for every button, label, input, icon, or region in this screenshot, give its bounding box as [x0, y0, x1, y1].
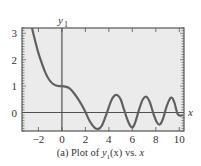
x-axis-label: x [187, 106, 193, 118]
svg-text:2: 2 [12, 54, 18, 66]
y-axis-label-subscript: 1 [64, 20, 68, 29]
caption-vs: vs. [122, 147, 139, 158]
svg-text:6: 6 [130, 133, 136, 145]
svg-text:10: 10 [174, 133, 186, 145]
svg-text:8: 8 [153, 133, 159, 145]
svg-text:3: 3 [12, 27, 18, 39]
svg-text:−2: −2 [33, 133, 45, 145]
svg-text:1: 1 [12, 80, 18, 92]
svg-text:4: 4 [106, 133, 112, 145]
plot-area [22, 28, 184, 131]
line-chart: 0123−20246810 y 1 x [0, 0, 201, 145]
svg-text:0: 0 [12, 107, 18, 119]
svg-text:0: 0 [59, 133, 65, 145]
svg-text:2: 2 [83, 133, 89, 145]
figure-caption: (a) Plot of y1(x) vs. x [0, 147, 201, 161]
caption-variable: x [140, 147, 145, 158]
y-axis-label: y [57, 14, 63, 26]
caption-prefix: (a) Plot of [57, 147, 102, 158]
caption-argument: (x) [110, 147, 122, 158]
